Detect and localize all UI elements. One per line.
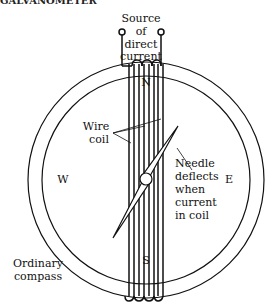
svg-text:Ordinary: Ordinary [13,257,64,270]
galvanometer-diagram: GALVANOMETER [0,0,268,308]
source-label: Source of direct current [120,12,162,63]
svg-text:current: current [175,196,217,209]
svg-text:compass: compass [14,270,62,283]
compass-label: Ordinary compass [13,257,64,283]
west-label: W [57,173,69,186]
svg-text:Needle: Needle [175,157,215,170]
svg-text:Source: Source [121,12,160,25]
north-label: N [141,76,151,89]
east-label: E [225,173,233,186]
compass-needle [113,126,178,238]
svg-text:of: of [136,25,148,38]
needle-label: Needle deflects when current in coil [175,157,219,222]
south-label: S [142,254,150,267]
svg-text:when: when [175,183,205,196]
svg-text:current: current [120,50,162,63]
svg-text:in coil: in coil [175,209,209,222]
header-title: GALVANOMETER [0,0,97,6]
svg-text:Wire: Wire [83,120,109,133]
wire-coil-label: Wire coil [83,120,110,146]
needle-pivot [140,173,152,185]
svg-text:deflects: deflects [175,170,219,183]
svg-text:coil: coil [89,133,109,146]
